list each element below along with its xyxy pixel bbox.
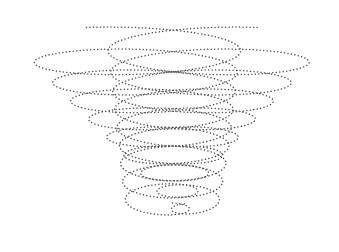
right-helix-spiral-path <box>108 27 309 215</box>
right-helix <box>108 27 309 215</box>
left-helix <box>34 27 240 214</box>
dotted-helix-drawing <box>0 0 339 252</box>
left-helix-spiral-path <box>34 27 240 214</box>
